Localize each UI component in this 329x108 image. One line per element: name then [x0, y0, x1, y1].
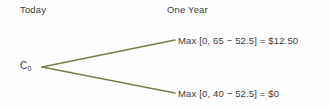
lower-branch-line: [42, 67, 175, 93]
payoff-label-down: Max [0, 40 − 52.5] = $0: [178, 88, 279, 99]
root-node-label: C0: [20, 60, 31, 74]
column-header-today: Today: [20, 4, 46, 15]
upper-branch-line: [42, 40, 175, 67]
root-node-subscript: 0: [27, 65, 31, 72]
column-header-one-year: One Year: [167, 4, 208, 15]
payoff-label-up: Max [0, 65 − 52.5] = $12.50: [178, 35, 298, 46]
branch-lines-group: [0, 0, 329, 108]
option-payoff-tree-diagram: Today One Year C0 Max [0, 65 − 52.5] = $…: [0, 0, 329, 108]
